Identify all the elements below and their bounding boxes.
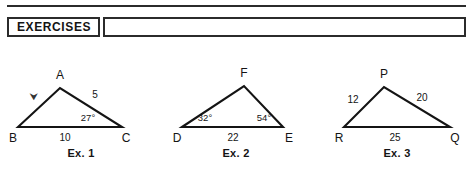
side-label-pr: 12	[347, 94, 359, 105]
side-label-pq: 20	[416, 92, 428, 103]
triangle-prq-diagram: P R Q 12 20 25	[318, 48, 474, 148]
side-label-ac: 5	[92, 89, 98, 100]
figure-ex3: P R Q 12 20 25 Ex. 3	[318, 48, 474, 174]
figure-ex2: F D E 22 32° 54° Ex. 2	[157, 48, 315, 174]
vertex-label-r: R	[335, 131, 344, 145]
exercises-header: EXERCISES	[7, 17, 466, 37]
vertex-label-q: Q	[450, 131, 459, 145]
caption-ex3: Ex. 3	[318, 147, 474, 159]
figure-ex1: A B C 5 10 27° ⮟ Ex. 1	[2, 48, 160, 174]
side-label-rq: 25	[389, 132, 401, 143]
angle-label-c: 27°	[81, 112, 96, 123]
vertex-label-p: P	[380, 67, 388, 81]
top-divider-rule	[7, 5, 466, 7]
vertex-label-a: A	[56, 68, 64, 82]
angle-label-d: 32°	[198, 112, 213, 123]
triangle-abc-diagram: A B C 5 10 27° ⮟	[2, 48, 160, 148]
side-label-de: 22	[227, 132, 239, 143]
caption-ex2: Ex. 2	[157, 147, 315, 159]
triangle-prq-shape	[344, 87, 450, 127]
vertex-label-e: E	[285, 131, 293, 145]
exercises-tag-label: EXERCISES	[7, 17, 100, 37]
side-label-bc: 10	[59, 132, 71, 143]
vertex-label-f: F	[240, 66, 247, 80]
exercises-empty-bar	[103, 17, 466, 37]
triangle-dfe-diagram: F D E 22 32° 54°	[157, 48, 315, 148]
vertex-label-d: D	[173, 131, 182, 145]
vertex-label-c: C	[122, 131, 131, 145]
caption-ex1: Ex. 1	[2, 147, 160, 159]
angle-label-e: 54°	[257, 112, 272, 123]
figures-row: A B C 5 10 27° ⮟ Ex. 1 F D E 22 32° 54° …	[0, 48, 474, 174]
side-ab-tick-icon: ⮟	[29, 92, 38, 102]
vertex-label-b: B	[9, 131, 17, 145]
